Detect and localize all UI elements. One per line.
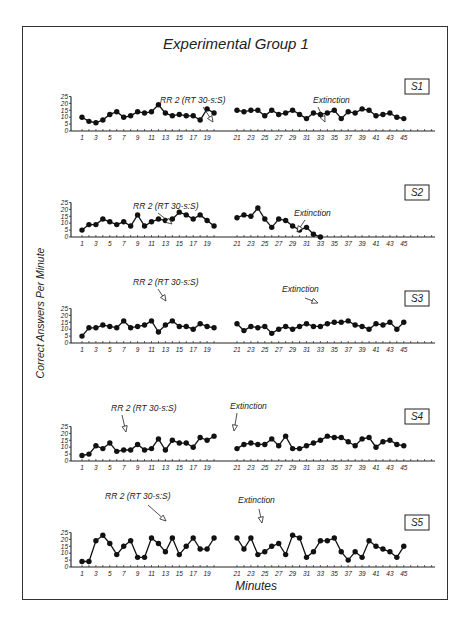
chart-panels: 0510152025135791113151719212325272931333… — [0, 0, 468, 623]
x-tick-label: 3 — [94, 570, 98, 577]
x-tick-label: 19 — [203, 240, 211, 247]
x-tick-label: 5 — [108, 570, 112, 577]
y-tick-label: 20 — [60, 430, 69, 437]
data-point — [352, 322, 357, 327]
data-point — [184, 544, 189, 549]
data-point — [352, 549, 357, 554]
arrow-icon — [235, 413, 237, 425]
data-point — [142, 110, 147, 115]
data-point — [100, 117, 105, 122]
data-point — [373, 113, 378, 118]
data-point — [366, 538, 371, 543]
x-tick-label: 7 — [122, 570, 126, 577]
data-point — [184, 440, 189, 445]
data-point — [191, 445, 196, 450]
data-point — [290, 533, 295, 538]
phase-label-rr2: RR 2 (RT 30-s:S) — [160, 95, 226, 105]
data-point — [177, 552, 182, 557]
x-tick-label: 31 — [303, 240, 311, 247]
data-point — [121, 447, 126, 452]
x-tick-label: 5 — [108, 240, 112, 247]
data-point — [283, 218, 288, 223]
data-point — [297, 446, 302, 451]
data-point — [211, 223, 216, 228]
data-point — [262, 113, 267, 118]
data-point — [204, 218, 209, 223]
data-point — [380, 322, 385, 327]
data-point — [135, 442, 140, 447]
data-point — [290, 223, 295, 228]
x-tick-label: 19 — [203, 134, 211, 141]
data-point — [255, 442, 260, 447]
x-tick-label: 19 — [203, 346, 211, 353]
phase-label-extinction: Extinction — [282, 284, 319, 294]
data-point — [114, 222, 119, 227]
x-tick-label: 29 — [288, 464, 297, 471]
arrow-icon — [259, 509, 261, 517]
data-point — [163, 447, 168, 452]
panel-s2: 0510152025135791113151719212325272931333… — [60, 185, 435, 247]
data-point — [346, 109, 351, 114]
x-tick-label: 25 — [260, 134, 269, 141]
data-point — [197, 212, 202, 217]
data-point — [297, 535, 302, 540]
x-tick-label: 21 — [232, 240, 241, 247]
data-point — [107, 324, 112, 329]
data-point — [269, 331, 274, 336]
y-tick-label: 5 — [64, 556, 68, 563]
x-tick-label: 27 — [274, 346, 283, 353]
data-point — [297, 324, 302, 329]
data-point — [283, 552, 288, 557]
x-tick-label: 3 — [94, 134, 98, 141]
data-point — [262, 324, 267, 329]
data-point — [170, 318, 175, 323]
data-point — [276, 216, 281, 221]
x-tick-label: 21 — [232, 570, 241, 577]
x-tick-label: 19 — [203, 570, 211, 577]
x-tick-label: 35 — [331, 134, 339, 141]
data-point — [86, 325, 91, 330]
x-tick-label: 33 — [317, 134, 325, 141]
data-point — [387, 549, 392, 554]
y-tick-label: 20 — [60, 312, 69, 319]
subject-label: S2 — [411, 187, 424, 198]
phase-label-rr2: RR 2 (RT 30-s:S) — [111, 403, 177, 413]
x-tick-label: 11 — [148, 240, 155, 247]
data-point — [359, 324, 364, 329]
x-tick-label: 29 — [288, 346, 297, 353]
x-tick-label: 43 — [386, 134, 394, 141]
data-point — [100, 446, 105, 451]
data-point — [241, 328, 246, 333]
data-point — [149, 109, 154, 114]
data-point — [121, 219, 126, 224]
data-point — [177, 112, 182, 117]
x-tick-label: 17 — [190, 464, 198, 471]
data-point — [262, 442, 267, 447]
y-tick-label: 10 — [61, 325, 69, 332]
x-tick-label: 31 — [303, 134, 311, 141]
x-tick-label: 7 — [122, 346, 126, 353]
data-point — [211, 325, 216, 330]
phase-label-extinction: Extinction — [313, 95, 350, 105]
x-tick-label: 1 — [80, 134, 84, 141]
y-tick-label: 0 — [64, 127, 68, 134]
data-point — [248, 324, 253, 329]
subject-label: S1 — [411, 81, 423, 92]
y-tick-label: 25 — [60, 529, 69, 536]
x-tick-label: 27 — [274, 240, 283, 247]
x-tick-label: 35 — [331, 570, 339, 577]
data-point — [142, 555, 147, 560]
data-point — [248, 214, 253, 219]
data-point — [211, 433, 216, 438]
x-tick-label: 33 — [317, 346, 325, 353]
x-tick-label: 43 — [386, 570, 394, 577]
data-point — [290, 108, 295, 113]
y-tick-label: 15 — [61, 213, 69, 220]
x-tick-label: 25 — [260, 464, 269, 471]
data-point — [276, 112, 281, 117]
phase-label-extinction: Extinction — [230, 401, 267, 411]
data-point — [234, 535, 239, 540]
data-point — [114, 325, 119, 330]
x-tick-label: 15 — [176, 346, 184, 353]
data-point — [135, 212, 140, 217]
